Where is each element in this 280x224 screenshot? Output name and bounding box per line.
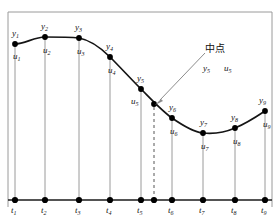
knot-label-y-3: y3 [75,23,82,32]
figure-canvas [0,0,280,224]
figure-frame [8,12,272,207]
curve-point-7 [200,130,206,136]
spline-curve [15,37,265,133]
axis-point-6 [169,197,175,203]
midpoint-annotation-u-label: u5 [224,64,232,73]
axis-label-t-1: t1 [11,206,17,215]
ordinate-lines [15,37,265,200]
knot-label-u-7: u7 [201,142,209,151]
axis-label-t-8: t8 [231,206,237,215]
knot-label-u-6: u6 [170,127,178,136]
knot-label-y-8: y8 [231,113,238,122]
curve-point-2 [42,34,48,40]
knot-label-y-6: y6 [169,103,176,112]
leader-arrowhead-icon [155,99,163,105]
curve-point-6 [169,115,175,121]
axis-point-7 [200,197,206,203]
knot-label-y-7: y7 [200,118,207,127]
knot-label-u-4: u4 [108,66,116,75]
axis-point-1 [12,197,18,203]
axis-point-4 [107,197,113,203]
midpoint-annotation-text: 中点 [205,44,225,54]
midpoint-leader [155,53,205,105]
knot-label-y-9: y9 [259,96,266,105]
axis-midpoint-marker [151,197,157,203]
knot-label-u-5: u5 [131,97,139,106]
axis-label-t-4: t4 [106,206,112,215]
leader-line [160,53,205,100]
knot-label-u-1: u1 [13,52,21,61]
curve-point-1 [12,41,18,47]
knot-label-y-4: y4 [106,42,113,51]
knot-label-y-1: y1 [12,29,19,38]
knot-label-u-3: u3 [77,47,85,56]
axis-point-5 [138,197,144,203]
axis-label-t-3: t3 [75,206,81,215]
midpoint-annotation-y-label: y5 [203,64,210,73]
axis-label-t-2: t2 [41,206,47,215]
axis-label-t-5: t5 [137,206,143,215]
knot-label-u-2: u2 [43,46,51,55]
axis-point-9 [262,197,268,203]
axis-point-8 [232,197,238,203]
knot-label-u-8: u8 [233,137,241,146]
curve-point-9 [262,108,268,114]
knot-label-u-9: u9 [263,120,271,129]
axis-label-t-6: t6 [168,206,174,215]
curve-point-3 [76,35,82,41]
axis-label-t-9: t9 [261,206,267,215]
axis-point-2 [42,197,48,203]
knot-label-y-2: y2 [41,22,48,31]
axis-point-3 [76,197,82,203]
curve-point-5 [138,86,144,92]
curve-point-4 [107,54,113,60]
axis-label-t-7: t7 [199,206,205,215]
knot-label-y-5: y5 [137,74,144,83]
curve-point-8 [232,125,238,131]
spline-knot-figure: y1 y2 y3 y4 y5 y6 y7 y8 y9 u1 u2 u3 u4 u… [0,0,280,224]
